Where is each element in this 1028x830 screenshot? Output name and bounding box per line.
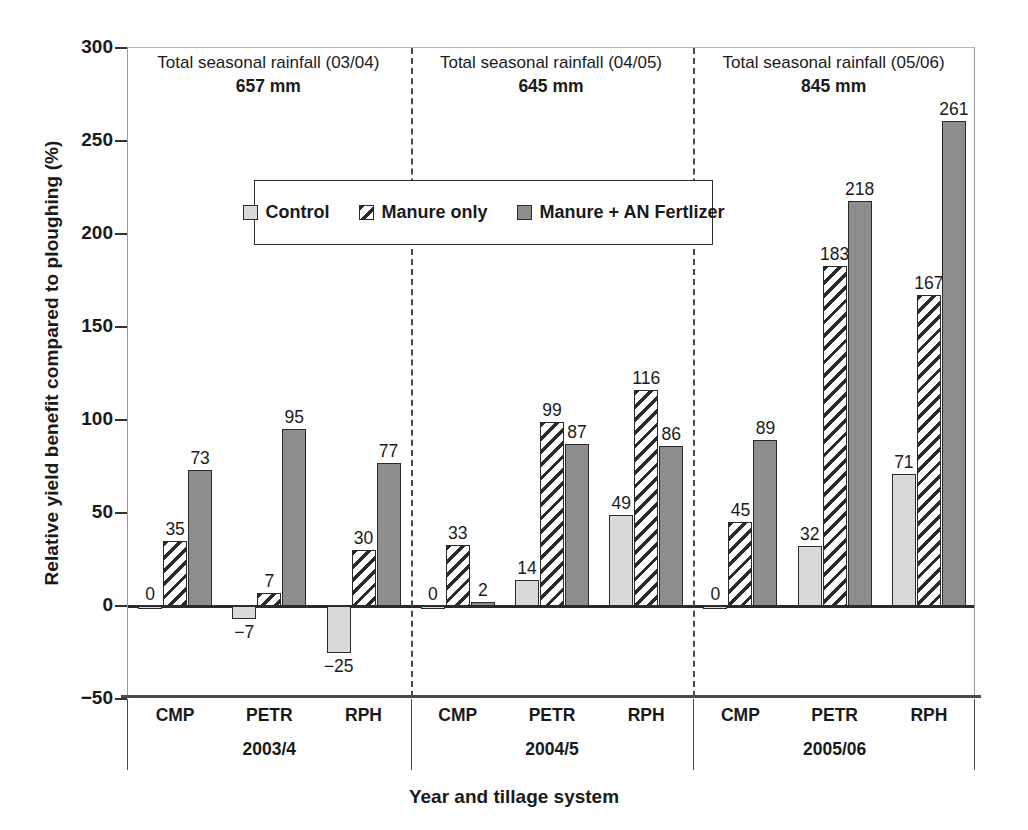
plot-area: 03573−7795−25307703321499874911686045893…	[127, 47, 975, 698]
y-axis-tick-label: 0	[102, 594, 113, 616]
x-axis-title: Year and tillage system	[0, 786, 1028, 808]
x-axis-tillage-label: CMP	[411, 705, 505, 726]
chart-root: Relative yield benefit compared to ploug…	[0, 0, 1028, 830]
bar-value-label: 87	[554, 422, 600, 443]
group-rainfall-annotation: Total seasonal rainfall (03/04)657 mm	[127, 51, 410, 98]
y-axis: 300250200150100500−50	[0, 0, 127, 830]
x-axis-tillage-label: RPH	[599, 705, 693, 726]
bar-value-label: 89	[742, 418, 788, 439]
bar	[421, 606, 445, 609]
bar	[471, 602, 495, 606]
y-axis-tick-mark	[115, 326, 127, 328]
y-axis-tick-mark	[115, 419, 127, 421]
bar	[377, 463, 401, 606]
rainfall-annotation-value: 845 mm	[692, 74, 975, 98]
y-axis-tick-label: −50	[81, 687, 113, 709]
bar	[163, 541, 187, 606]
bar	[848, 201, 872, 606]
group-rainfall-annotation: Total seasonal rainfall (04/05)645 mm	[410, 51, 693, 98]
bar-value-label: 95	[271, 407, 317, 428]
bar	[634, 390, 658, 606]
rainfall-annotation-value: 657 mm	[127, 74, 410, 98]
y-axis-tick-label: 200	[81, 222, 113, 244]
legend-item: Manure only	[359, 202, 488, 223]
bar-value-label: −7	[221, 622, 267, 643]
bar-value-label: 86	[648, 424, 694, 445]
bar-value-label: 99	[529, 400, 575, 421]
bar-value-label: 73	[177, 448, 223, 469]
legend-item-label: Manure + AN Fertlizer	[540, 202, 725, 223]
x-axis-tillage-label: CMP	[128, 705, 222, 726]
bar-value-label: −25	[316, 656, 362, 677]
legend-swatch-icon	[359, 205, 374, 220]
y-axis-tick-label: 250	[81, 129, 113, 151]
bar	[942, 121, 966, 606]
legend-item: Control	[243, 202, 330, 223]
x-axis-tillage-label: PETR	[505, 705, 599, 726]
bar	[327, 606, 351, 653]
x-axis-category-band: CMPPETRRPH2003/4CMPPETRRPH2004/5CMPPETRR…	[127, 699, 975, 770]
bar-value-label: 261	[931, 99, 977, 120]
x-axis-tillage-label: PETR	[222, 705, 316, 726]
bar	[798, 546, 822, 606]
bar-value-label: 116	[623, 368, 669, 389]
bar	[703, 606, 727, 609]
bar	[540, 422, 564, 606]
legend: ControlManure onlyManure + AN Fertlizer	[254, 180, 713, 245]
x-axis-tillage-label: RPH	[882, 705, 976, 726]
bar	[232, 606, 256, 619]
bar	[728, 522, 752, 606]
bar-value-label: 218	[837, 179, 883, 200]
bar	[352, 550, 376, 606]
bar	[892, 474, 916, 606]
y-axis-tick-label: 300	[81, 36, 113, 58]
legend-item-label: Control	[266, 202, 330, 223]
y-axis-tick-mark	[115, 605, 127, 607]
rainfall-annotation-line: Total seasonal rainfall (05/06)	[692, 51, 975, 74]
bar-value-label: 77	[366, 441, 412, 462]
rainfall-annotation-line: Total seasonal rainfall (04/05)	[410, 51, 693, 74]
x-axis-year-label: 2004/5	[411, 739, 694, 760]
bar	[188, 470, 212, 606]
y-axis-tick-mark	[115, 140, 127, 142]
bar-value-label: 2	[460, 580, 506, 601]
x-axis-rule	[121, 695, 981, 698]
legend-swatch-icon	[243, 205, 258, 220]
bar	[917, 295, 941, 606]
bar	[565, 444, 589, 606]
y-axis-tick-mark	[115, 698, 127, 700]
bar	[138, 606, 162, 609]
x-axis-tillage-label: PETR	[788, 705, 882, 726]
bar	[823, 266, 847, 606]
x-axis-year-label: 2005/06	[693, 739, 976, 760]
y-axis-tick-mark	[115, 512, 127, 514]
group-rainfall-annotation: Total seasonal rainfall (05/06)845 mm	[692, 51, 975, 98]
y-axis-tick-label: 150	[81, 315, 113, 337]
rainfall-annotation-value: 645 mm	[410, 74, 693, 98]
bar	[609, 515, 633, 606]
bar	[257, 593, 281, 606]
bar	[753, 440, 777, 606]
y-axis-tick-label: 50	[92, 501, 113, 523]
bar	[659, 446, 683, 606]
x-axis-year-label: 2003/4	[128, 739, 411, 760]
bar	[515, 580, 539, 606]
legend-swatch-icon	[517, 205, 532, 220]
y-axis-tick-mark	[115, 233, 127, 235]
bar-value-label: 33	[435, 523, 481, 544]
legend-item: Manure + AN Fertlizer	[517, 202, 725, 223]
x-axis-tillage-label: CMP	[693, 705, 787, 726]
rainfall-annotation-line: Total seasonal rainfall (03/04)	[127, 51, 410, 74]
bar	[282, 429, 306, 606]
y-axis-tick-label: 100	[81, 408, 113, 430]
legend-item-label: Manure only	[382, 202, 488, 223]
x-axis-tillage-label: RPH	[316, 705, 410, 726]
y-axis-tick-mark	[115, 47, 127, 49]
